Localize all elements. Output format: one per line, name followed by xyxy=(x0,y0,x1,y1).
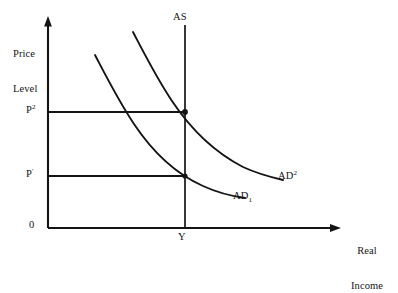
ad1-label-base: AD xyxy=(233,190,248,201)
price-tick-label-low: P' xyxy=(26,168,33,180)
y-axis xyxy=(44,16,52,228)
output-tick-label: Y xyxy=(178,231,186,243)
as-curve-label: AS xyxy=(173,11,187,23)
equilibrium-point-high xyxy=(182,109,188,115)
y-axis-title-line2: Level xyxy=(13,83,37,95)
price-tick-low-superscript: ' xyxy=(32,167,33,175)
price-tick-high-superscript: 2 xyxy=(32,103,36,111)
ad2-label-base: AD xyxy=(278,170,293,181)
x-axis xyxy=(48,224,341,232)
origin-label: 0 xyxy=(29,219,34,231)
x-axis-title-line2: Income xyxy=(351,280,383,292)
y-axis-title-line1: Price xyxy=(13,48,37,60)
x-axis-arrowhead xyxy=(330,224,341,232)
equilibrium-point-low xyxy=(182,173,187,178)
y-axis-arrowhead xyxy=(44,16,52,27)
price-tick-label-high: P2 xyxy=(26,104,36,116)
ad2-label-superscript: 2 xyxy=(293,169,297,177)
x-axis-title: Real Income xyxy=(351,221,383,293)
ad2-curve xyxy=(133,32,283,180)
ad2-curve-label: AD2 xyxy=(278,170,297,182)
ad1-label-subscript: 1 xyxy=(248,196,252,204)
x-axis-title-line1: Real xyxy=(351,245,383,257)
ad1-curve-label: AD1 xyxy=(233,190,252,202)
